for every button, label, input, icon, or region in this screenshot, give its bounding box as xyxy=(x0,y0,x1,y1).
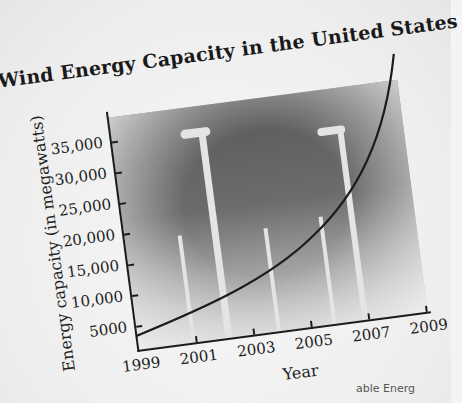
chart-figure: Wind Energy Capacity in the United State… xyxy=(0,0,462,403)
capacity-curve xyxy=(0,0,462,403)
source-credit: able Energ xyxy=(356,382,415,395)
